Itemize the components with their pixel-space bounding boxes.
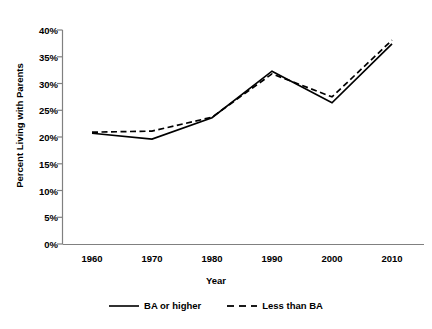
chart-figure: Percent Living with Parents 40% 35% 30% …	[0, 0, 432, 329]
legend-item-ba-or-higher: BA or higher	[109, 300, 201, 311]
legend-solid-line-swatch	[109, 301, 139, 311]
series-line-ba-or-higher	[92, 44, 392, 139]
y-tick-marks	[57, 30, 63, 244]
plot-area	[0, 0, 432, 329]
legend-label: BA or higher	[144, 300, 201, 311]
series-line-less-than-ba	[92, 40, 392, 132]
legend-dashed-line-swatch	[227, 301, 257, 311]
legend-label: Less than BA	[262, 300, 323, 311]
chart-legend: BA or higher Less than BA	[0, 300, 432, 311]
legend-item-less-than-ba: Less than BA	[227, 300, 323, 311]
